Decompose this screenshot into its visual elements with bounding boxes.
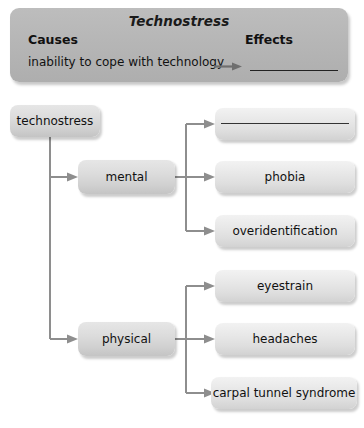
node-label: technostress — [17, 114, 94, 128]
arrow-right-icon — [214, 62, 242, 71]
node-technostress[interactable]: technostress — [10, 105, 100, 137]
node-label: mental — [105, 170, 147, 184]
effects-column-header: Effects — [245, 32, 293, 47]
causes-column-header: Causes — [28, 32, 78, 47]
node-label: phobia — [265, 170, 306, 184]
node-label: physical — [102, 332, 151, 346]
node-headaches[interactable]: headaches — [215, 323, 355, 355]
node-phobia[interactable]: phobia — [215, 161, 355, 193]
header-title: Technostress — [10, 13, 348, 29]
fill-in-blank-line[interactable] — [221, 123, 349, 124]
node-label: carpal tunnel syndrome — [213, 386, 356, 400]
node-eyestrain[interactable]: eyestrain — [215, 270, 355, 302]
node-mental-effect-blank[interactable] — [215, 108, 355, 140]
technostress-header-panel: Technostress Causes Effects inability to… — [10, 8, 348, 82]
node-label: eyestrain — [257, 279, 313, 293]
node-overidentification[interactable]: overidentification — [215, 215, 355, 247]
node-label: headaches — [252, 332, 317, 346]
node-label: overidentification — [232, 224, 337, 238]
effect-answer-blank[interactable] — [250, 70, 338, 71]
node-carpal-tunnel-syndrome[interactable]: carpal tunnel syndrome — [211, 377, 357, 409]
node-physical[interactable]: physical — [78, 322, 175, 356]
cause-item-text: inability to cope with technology — [28, 55, 224, 69]
node-mental[interactable]: mental — [78, 160, 175, 194]
